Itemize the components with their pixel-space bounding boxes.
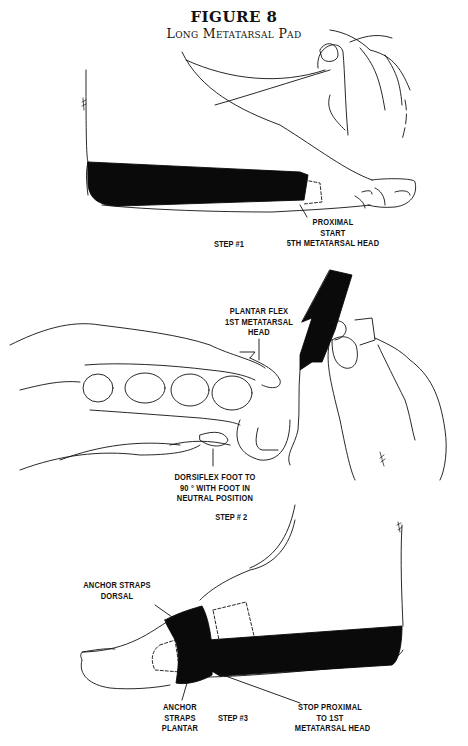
callout-line: ANCHOR STRAPS [77, 580, 156, 591]
callout-line: STOP PROXIMAL [295, 702, 365, 713]
callout-line: PROXIMAL [285, 217, 382, 228]
callout-anchor-straps-plantar: ANCHOR STRAPS PLANTAR [157, 702, 203, 734]
callout-line: HEAD [220, 327, 297, 338]
step3-foot-illustration [81, 520, 403, 703]
callout-line: START [285, 228, 382, 239]
tape-strip-icon [208, 626, 402, 676]
callout-line: 5TH METATARSAL HEAD [285, 238, 382, 249]
step-1-label: STEP #1 [214, 239, 244, 249]
callout-line: NEUTRAL POSITION [171, 493, 259, 504]
callout-line: 1ST METATARSAL [220, 317, 297, 328]
callout-line: ANCHOR [157, 702, 203, 713]
anchor-strap-icon [165, 606, 213, 684]
callout-line: TO 1ST [295, 713, 365, 724]
callout-anchor-straps-dorsal: ANCHOR STRAPS DORSAL [77, 580, 156, 601]
callout-line: PLANTAR FLEX [220, 306, 297, 317]
callout-plantar-flex: PLANTAR FLEX 1ST METATARSAL HEAD [220, 306, 297, 338]
tape-strip-icon [300, 270, 352, 370]
callout-dorsiflex: DORSIFLEX FOOT TO 90 ° WITH FOOT IN NEUT… [171, 472, 259, 504]
callout-line: METATARSAL HEAD [295, 723, 365, 734]
step-3-label: STEP #3 [218, 713, 248, 723]
illustration-canvas [0, 0, 468, 746]
step-2-label: STEP # 2 [215, 512, 247, 522]
callout-line: 90 ° WITH FOOT IN [171, 483, 259, 494]
callout-line: PLANTAR [157, 723, 203, 734]
callout-line: STRAPS [157, 713, 203, 724]
step1-foot-illustration [82, 30, 416, 217]
callout-line: DORSAL [77, 591, 156, 602]
callout-stop-proximal: STOP PROXIMAL TO 1ST METATARSAL HEAD [295, 702, 365, 734]
callout-proximal-start: PROXIMAL START 5TH METATARSAL HEAD [285, 217, 382, 249]
callout-line: DORSIFLEX FOOT TO [171, 472, 259, 483]
tape-strip-icon [88, 162, 308, 206]
